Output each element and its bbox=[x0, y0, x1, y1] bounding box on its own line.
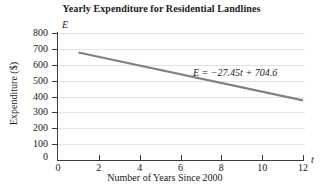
y-tick bbox=[52, 49, 58, 50]
x-tick bbox=[99, 155, 100, 161]
y-tick bbox=[52, 128, 58, 129]
y-tick-label-zero: 0 bbox=[8, 152, 48, 162]
x-tick bbox=[221, 155, 222, 161]
y-tick bbox=[52, 65, 58, 66]
y-tick-label: 800 bbox=[8, 28, 48, 38]
x-tick-label: 12 bbox=[291, 163, 315, 173]
y-tick bbox=[52, 97, 58, 98]
y-tick bbox=[52, 33, 58, 34]
chart-container: Yearly Expenditure for Residential Landl… bbox=[0, 0, 323, 188]
x-tick bbox=[140, 155, 141, 161]
x-tick bbox=[181, 155, 182, 161]
y-axis-title: Expenditure ($) bbox=[8, 39, 19, 149]
x-tick bbox=[303, 155, 304, 161]
y-tick bbox=[52, 81, 58, 82]
y-tick bbox=[52, 112, 58, 113]
equation-annotation: E = −27.45t + 704.6 bbox=[193, 67, 277, 78]
y-tick bbox=[52, 144, 58, 145]
x-axis-title: Number of Years Since 2000 bbox=[40, 172, 290, 183]
x-tick bbox=[262, 155, 263, 161]
